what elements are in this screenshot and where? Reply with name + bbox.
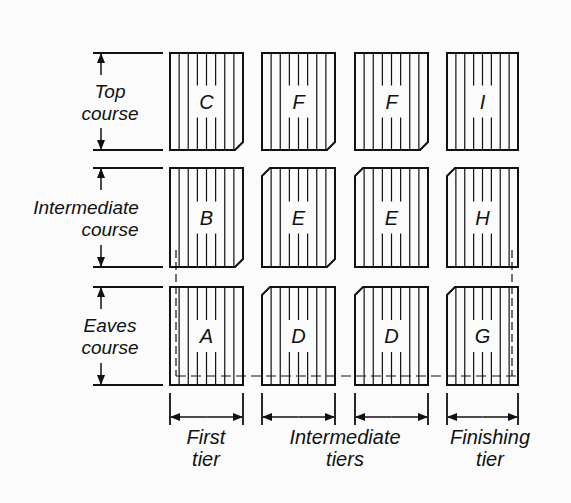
course-dimension: Intermediatecourse bbox=[33, 168, 163, 267]
shingle-letter: D bbox=[291, 325, 305, 347]
shingle-letter: B bbox=[200, 207, 213, 229]
course-dimension-group: TopcourseIntermediatecourseEavescourse bbox=[33, 53, 163, 385]
tier-dimension bbox=[262, 393, 335, 425]
tier-dimension bbox=[170, 393, 243, 425]
tier-label: tiers bbox=[326, 448, 364, 470]
course-label: Intermediate bbox=[33, 197, 139, 218]
shingle-letter: H bbox=[475, 207, 490, 229]
shingle: H bbox=[447, 168, 518, 267]
shingle: F bbox=[262, 53, 335, 150]
shingle-letter: A bbox=[199, 325, 213, 347]
shingle: D bbox=[355, 287, 428, 385]
shingle: C bbox=[170, 53, 243, 150]
shingle-letter: F bbox=[385, 91, 399, 113]
course-dimension: Eavescourse bbox=[81, 287, 163, 385]
shingle: B bbox=[170, 168, 243, 267]
course-label: Top bbox=[95, 81, 126, 102]
shingle: A bbox=[170, 287, 243, 385]
tier-label: Intermediate bbox=[289, 426, 400, 448]
tier-dimension bbox=[355, 393, 428, 425]
course-label: course bbox=[81, 219, 138, 240]
tier-label: tier bbox=[476, 448, 505, 470]
shingle-course-tier-diagram: TopcourseIntermediatecourseEavescourse C… bbox=[0, 0, 571, 503]
shingle-letter: C bbox=[199, 91, 214, 113]
tier-dimension bbox=[447, 393, 518, 425]
shingle-letter: E bbox=[292, 207, 306, 229]
shingle-grid: CFFIBEEHADDG bbox=[170, 53, 518, 385]
shingle-letter: I bbox=[480, 91, 486, 113]
tier-label: First bbox=[187, 426, 227, 448]
eaves-dashed-line bbox=[176, 250, 518, 376]
tier-label: tier bbox=[192, 448, 221, 470]
tier-dimension-group: FirsttierIntermediatetiersFinishingtier bbox=[170, 393, 530, 470]
shingle-letter: G bbox=[475, 325, 491, 347]
shingle-letter: D bbox=[384, 325, 398, 347]
shingle: E bbox=[262, 168, 335, 267]
course-label: course bbox=[81, 337, 138, 358]
shingle-letter: F bbox=[292, 91, 306, 113]
shingle-letter: E bbox=[385, 207, 399, 229]
shingle: I bbox=[447, 53, 518, 150]
course-dimension: Topcourse bbox=[81, 53, 163, 150]
shingle: G bbox=[447, 287, 518, 385]
course-label: Eaves bbox=[84, 315, 137, 336]
shingle: E bbox=[355, 168, 428, 267]
course-label: course bbox=[81, 103, 138, 124]
shingle: D bbox=[262, 287, 335, 385]
tier-label: Finishing bbox=[450, 426, 530, 448]
shingle: F bbox=[355, 53, 428, 150]
